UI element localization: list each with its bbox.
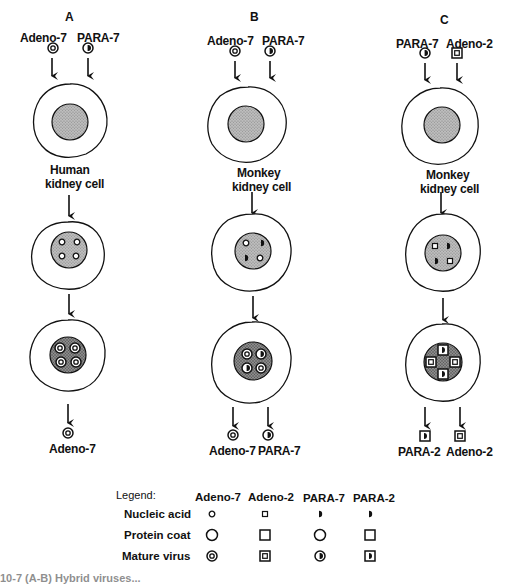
output-label: Adeno-7 bbox=[209, 444, 256, 458]
panel-a bbox=[30, 43, 107, 438]
cell-label-line1: Monkey bbox=[237, 166, 280, 180]
legend-column-header: Adeno-2 bbox=[248, 491, 294, 503]
output-label: PARA-7 bbox=[258, 444, 301, 458]
input-label: Adeno-7 bbox=[207, 34, 254, 48]
cell-label-line2: kidney cell bbox=[232, 180, 291, 194]
panel-b bbox=[208, 46, 291, 440]
legend-icons bbox=[207, 511, 376, 561]
legend-row-label: Nucleic acid bbox=[124, 508, 191, 520]
cell-label-line2: kidney cell bbox=[420, 182, 479, 196]
panel-letter-c: C bbox=[440, 13, 449, 27]
figure-caption: 10-7 (A-B) Hybrid viruses... bbox=[0, 572, 141, 584]
nucleus bbox=[52, 104, 88, 140]
nucleus bbox=[50, 337, 86, 373]
legend-column-header: PARA-2 bbox=[353, 492, 395, 504]
legend-row-label: Mature virus bbox=[122, 550, 190, 562]
output-label: Adeno-7 bbox=[49, 442, 96, 456]
cell-label-line2: kidney cell bbox=[45, 177, 104, 191]
input-label: PARA-7 bbox=[77, 31, 120, 45]
legend-column-header: PARA-7 bbox=[303, 492, 345, 504]
input-label: Adeno-7 bbox=[20, 31, 67, 45]
output-label: PARA-2 bbox=[398, 445, 441, 459]
panel-letter-a: A bbox=[65, 10, 74, 24]
output-label: Adeno-2 bbox=[446, 445, 493, 459]
adeno7-progeny-icon bbox=[63, 428, 73, 438]
cell-label-line1: Monkey bbox=[426, 168, 469, 182]
legend-column-header: Adeno-7 bbox=[195, 491, 241, 503]
nucleus bbox=[51, 232, 87, 268]
panel-letter-b: B bbox=[250, 10, 259, 24]
input-label: PARA-7 bbox=[396, 37, 439, 51]
panel-c bbox=[402, 48, 480, 441]
cell-label-line1: Human bbox=[50, 163, 90, 177]
input-label: PARA-7 bbox=[262, 34, 305, 48]
legend-title: Legend: bbox=[116, 489, 156, 501]
input-label: Adeno-2 bbox=[446, 37, 493, 51]
legend-row-label: Protein coat bbox=[124, 529, 190, 541]
